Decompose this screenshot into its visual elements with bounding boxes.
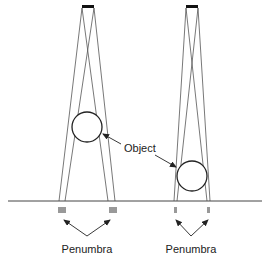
penumbra-right-label: Penumbra bbox=[166, 243, 218, 255]
left-setup bbox=[58, 5, 117, 213]
penumbra-right-arrow-a bbox=[176, 220, 191, 236]
left-source bbox=[82, 5, 94, 8]
left-penumbra-a bbox=[58, 207, 66, 213]
object-label: Object bbox=[124, 142, 156, 154]
penumbra-left-label: Penumbra bbox=[62, 243, 114, 255]
penumbra-left-arrow-b bbox=[87, 220, 110, 236]
right-source bbox=[186, 5, 198, 8]
right-penumbra-b bbox=[207, 207, 210, 213]
right-penumbra-a bbox=[174, 207, 177, 213]
object-arrow-left bbox=[103, 134, 121, 144]
penumbra-diagram: Object Penumbra Penumbra bbox=[0, 0, 270, 257]
left-penumbra-b bbox=[109, 207, 117, 213]
penumbra-left-arrow-a bbox=[64, 220, 87, 236]
left-object bbox=[72, 112, 102, 142]
penumbra-right-arrow-b bbox=[191, 220, 208, 236]
left-rays bbox=[59, 8, 115, 201]
right-setup bbox=[174, 5, 210, 213]
object-arrow-right bbox=[155, 155, 176, 167]
right-object bbox=[177, 161, 207, 191]
